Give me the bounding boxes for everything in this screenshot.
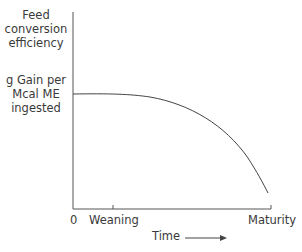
x-axis-title: Time bbox=[152, 229, 180, 243]
arrow-right-icon bbox=[220, 235, 227, 241]
efficiency-curve bbox=[73, 94, 268, 193]
tick-label-maturity: Maturity bbox=[248, 213, 296, 227]
tick-label-weaning: Weaning bbox=[89, 213, 139, 227]
tick-label-zero: 0 bbox=[70, 213, 77, 227]
